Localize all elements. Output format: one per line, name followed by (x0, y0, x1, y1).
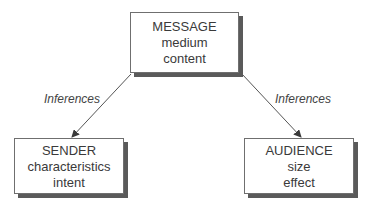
audience-line-2: effect (245, 175, 353, 191)
sender-line-1: characteristics (15, 159, 123, 175)
message-title: MESSAGE (131, 19, 238, 35)
message-node: MESSAGE medium content (130, 12, 239, 73)
sender-title: SENDER (15, 143, 123, 159)
edge-label-sender: Inferences (44, 92, 100, 106)
edge-label-audience: Inferences (275, 92, 331, 106)
audience-line-1: size (245, 159, 353, 175)
audience-node: AUDIENCE size effect (244, 138, 354, 194)
sender-node: SENDER characteristics intent (14, 138, 124, 194)
message-line-2: content (131, 51, 238, 67)
sender-line-2: intent (15, 175, 123, 191)
message-line-1: medium (131, 35, 238, 51)
audience-title: AUDIENCE (245, 143, 353, 159)
